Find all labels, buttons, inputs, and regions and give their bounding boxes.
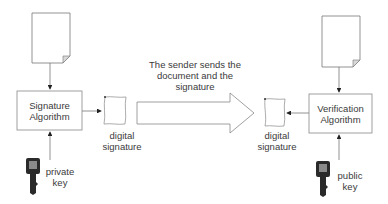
transfer-block-arrow-icon — [137, 93, 254, 133]
verifier-document-icon — [322, 16, 360, 67]
sender-signature-scroll-icon — [104, 96, 126, 124]
signature-algorithm-line2: Algorithm — [29, 111, 69, 122]
sender-signature-line2: signature — [102, 141, 141, 152]
transfer-label: The sender sends thedocument and thesign… — [130, 59, 260, 92]
private-key-line1: private — [46, 166, 75, 177]
public-key-icon — [316, 161, 330, 197]
public-key-label: publickey — [334, 170, 366, 192]
verifier-digital-signature-label: digitalsignature — [252, 130, 302, 152]
verification-algorithm-label: VerificationAlgorithm — [309, 94, 372, 133]
signature-algorithm-line1: Signature — [29, 100, 70, 111]
transfer-label-line3: signature — [175, 81, 214, 92]
private-key-label: privatekey — [44, 166, 76, 188]
sender-signature-line1: digital — [110, 130, 135, 141]
verifier-signature-line2: signature — [257, 141, 296, 152]
verifier-signature-line1: digital — [265, 130, 290, 141]
public-key-line2: key — [343, 181, 358, 192]
sender-document-icon — [32, 13, 70, 63]
private-key-line2: key — [53, 177, 68, 188]
private-key-icon — [26, 158, 40, 195]
transfer-label-line1: The sender sends the — [149, 59, 241, 70]
verifier-signature-scroll-icon — [264, 98, 285, 126]
verification-algorithm-line2: Algorithm — [320, 114, 360, 125]
public-key-line1: public — [338, 170, 363, 181]
signature-algorithm-label: SignatureAlgorithm — [17, 91, 82, 130]
verification-algorithm-line1: Verification — [317, 103, 363, 114]
transfer-label-line2: document and the — [157, 70, 233, 81]
sender-digital-signature-label: digitalsignature — [97, 130, 147, 152]
